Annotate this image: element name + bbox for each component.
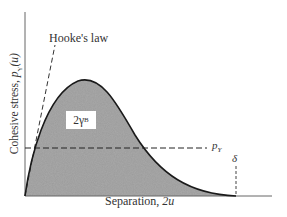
area-label-sub: B [84,116,89,124]
area-label-main: 2γ [73,114,84,126]
y-axis-label-arg: (u) [8,53,20,66]
diagram-canvas [0,0,287,217]
hookes-law-label: Hooke's law [49,31,108,46]
x-axis-label-text: Separation, [105,194,162,208]
x-axis-label-var: 2u [162,194,174,208]
delta-label: δ [232,152,237,164]
cohesive-stress-diagram: Hooke's law 2γB pY δ Separation, 2u Cohe… [0,0,287,217]
y-axis-label-var: p [8,72,20,78]
yield-stress-label: pY [212,139,221,154]
y-axis-label-text: Cohesive stress, [8,77,20,154]
yield-stress-sub: Y [218,146,222,154]
x-axis-label: Separation, 2u [105,194,174,209]
y-axis-label: Cohesive stress, pY(u) [8,44,23,164]
area-label-box: 2γB [66,111,96,129]
y-axis-label-sub: Y [16,66,24,71]
